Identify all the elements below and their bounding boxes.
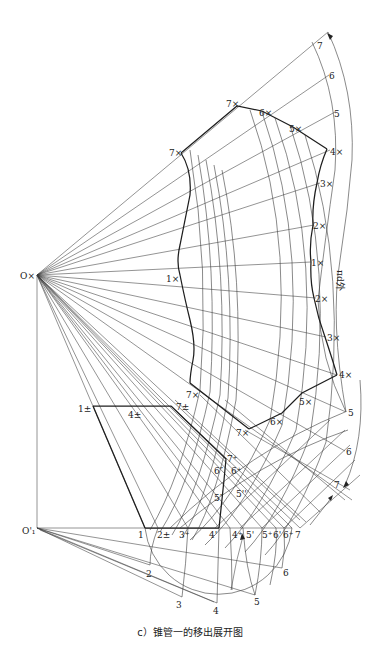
label-3x-lower: 3×	[327, 333, 340, 343]
label-6plus: 6⁺	[231, 466, 242, 476]
arc-arrow-right	[345, 380, 361, 485]
label-6x: 6×	[259, 108, 272, 118]
apex-label: O×	[20, 271, 35, 281]
top-contour	[181, 106, 327, 153]
label-base-5prime: 5'	[246, 530, 254, 540]
label-4x-lower: 4×	[339, 370, 352, 380]
arrowhead-right	[343, 481, 349, 488]
label-4pm: 4±	[128, 410, 141, 420]
label-base-4plus: 4⁺	[232, 530, 243, 540]
label-base-3plus: 3⁺	[179, 530, 190, 540]
label-base-6plus: 6⁺	[283, 530, 294, 540]
label-5x: 5×	[289, 124, 302, 134]
label-5x-lower: 5×	[299, 397, 312, 407]
label-left-7x-top: 7×	[169, 148, 182, 158]
cone-pipe-development-diagram: 7 6 5 7× 6× 5× 4× 3× 2× 1× 2× 3× 4× 5× 6…	[0, 0, 380, 649]
label-base-4prime: 4'	[209, 530, 217, 540]
label-left-1x: 1×	[166, 274, 179, 284]
label-4x: 4×	[330, 147, 343, 157]
label-6x-lower: 6×	[270, 417, 283, 427]
label-base-6prime: 6'	[273, 530, 281, 540]
label-3x: 3×	[320, 179, 333, 189]
label-base-1: 1	[138, 530, 144, 540]
label-left-7x-bottom: 7×	[186, 390, 199, 400]
origin-label: O'₁	[22, 526, 35, 536]
radial-lines-lower	[37, 275, 300, 528]
label-arc-7: 7	[317, 41, 323, 51]
label-arc-bottom-7: 7	[334, 480, 340, 490]
arc-arrow-lower	[310, 497, 332, 525]
dimension-label-pi-d: πd外	[335, 270, 346, 291]
label-7x-lower: 7×	[236, 428, 249, 438]
label-base-5plus: 5⁺	[262, 530, 273, 540]
label-base-7: 7	[295, 530, 301, 540]
label-2x-lower: 2×	[315, 294, 328, 304]
label-2x-upper: 2×	[313, 221, 326, 231]
label-semi-3: 3	[176, 600, 182, 610]
arrowhead-top	[327, 33, 333, 40]
label-semi-6: 6	[283, 568, 289, 578]
label-1x-right: 1×	[311, 258, 324, 268]
label-5dprime: 5″	[214, 493, 224, 503]
arrowhead-lower	[328, 495, 333, 501]
label-6dprime: 6″	[214, 466, 224, 476]
arrow-up-base	[231, 536, 243, 590]
outer-arc-top	[328, 32, 352, 412]
label-top-7x: 7×	[226, 99, 239, 109]
label-arc-bottom-5: 5	[348, 408, 354, 418]
left-slant-contour	[93, 406, 145, 528]
label-base-2pm: 2±	[157, 530, 170, 540]
figure-caption: c）锥管一的移出展开图	[0, 624, 380, 639]
label-7plus: 7⁺	[227, 454, 238, 464]
label-arc-bottom-6: 6	[346, 447, 352, 457]
label-arc-5: 5	[334, 109, 340, 119]
label-semi-5: 5	[254, 597, 260, 607]
label-7pm: 7±	[176, 402, 189, 412]
label-arc-6: 6	[329, 71, 335, 81]
label-5dprime-2: 5''	[236, 489, 247, 499]
label-semi-4: 4	[213, 606, 219, 616]
radial-lines-upper	[37, 32, 352, 500]
label-semi-2: 2	[146, 569, 152, 579]
label-1pm: 1±	[78, 404, 91, 414]
